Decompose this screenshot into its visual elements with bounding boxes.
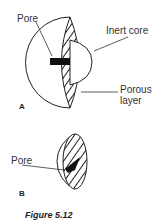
- panel-b-hemisphere: [57, 134, 87, 189]
- label-pore-b: Pore: [11, 155, 32, 166]
- figure-caption: Figure 5.12: [25, 210, 73, 220]
- panel-a-sphere: [26, 17, 92, 108]
- panel-tag-b: B: [19, 189, 25, 198]
- label-inert-core: Inert core: [106, 25, 148, 36]
- label-pore-a: Pore: [17, 13, 38, 24]
- label-porous-line1: Porous: [120, 84, 152, 95]
- panel-tag-a: A: [19, 102, 25, 111]
- label-porous-line2: layer: [120, 95, 142, 106]
